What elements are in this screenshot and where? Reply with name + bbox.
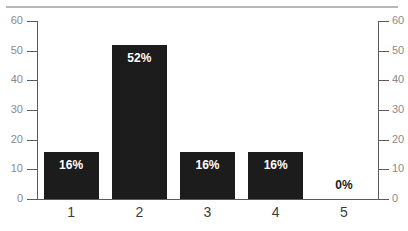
left-axis-tick-label: 20	[11, 134, 23, 145]
bar-value-label: 52%	[112, 52, 167, 64]
x-axis-category-label: 1	[37, 205, 105, 219]
right-axis-tick	[379, 199, 389, 200]
left-axis-tick-label: 30	[11, 104, 23, 115]
left-axis-tick-label: 60	[11, 15, 23, 26]
right-axis-tick-label: 0	[392, 193, 398, 204]
left-axis-tick	[27, 199, 37, 200]
right-axis-tick-label: 60	[392, 15, 404, 26]
left-axis-tick	[27, 140, 37, 141]
left-axis-tick-label: 50	[11, 45, 23, 56]
right-axis-tick-label: 20	[392, 134, 404, 145]
right-axis-tick	[379, 169, 389, 170]
left-axis-tick	[27, 21, 37, 22]
top-divider-rule	[6, 6, 398, 8]
x-axis-category-label: 3	[173, 205, 241, 219]
bar-value-label: 16%	[180, 159, 235, 171]
right-axis-tick	[379, 80, 389, 81]
right-axis-tick	[379, 110, 389, 111]
right-axis-tick	[379, 51, 389, 52]
right-axis-tick-label: 40	[392, 74, 404, 85]
bar-value-label: 0%	[316, 179, 371, 191]
left-axis-tick	[27, 80, 37, 81]
bar-value-label: 16%	[44, 159, 99, 171]
x-axis-line	[37, 199, 379, 200]
x-axis-category-label: 2	[105, 205, 173, 219]
bar-chart: 0102030405060 0102030405060 16%52%16%16%…	[0, 0, 408, 231]
left-axis-tick-label: 0	[17, 193, 23, 204]
right-axis-tick	[379, 140, 389, 141]
left-axis-tick	[27, 51, 37, 52]
right-axis-tick-label: 50	[392, 45, 404, 56]
bar	[112, 45, 167, 199]
plot-area: 16%52%16%16%0%	[37, 21, 378, 199]
left-axis-tick-label: 40	[11, 74, 23, 85]
left-axis-tick	[27, 169, 37, 170]
x-axis-category-label: 4	[242, 205, 310, 219]
bar-value-label: 16%	[248, 159, 303, 171]
right-axis-tick-label: 10	[392, 163, 404, 174]
left-axis-tick	[27, 110, 37, 111]
x-axis-category-label: 5	[310, 205, 378, 219]
left-axis-tick-label: 10	[11, 163, 23, 174]
right-axis-tick	[379, 21, 389, 22]
right-axis-tick-label: 30	[392, 104, 404, 115]
